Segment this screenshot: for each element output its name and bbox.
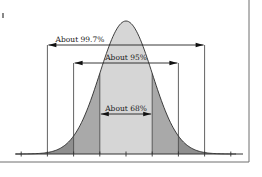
corner-mark — [2, 13, 4, 18]
arrowhead-left-1 — [75, 61, 83, 66]
empirical-rule-diagram: About 99.7% About 95% About 68% — [0, 0, 262, 177]
label-95: About 95% — [104, 53, 147, 62]
arrowhead-right-0 — [196, 43, 204, 48]
label-68: About 68% — [104, 104, 147, 113]
region-center-68 — [100, 21, 152, 154]
shaded-regions — [16, 21, 236, 154]
arrowhead-right-1 — [169, 61, 177, 66]
label-99-7: About 99.7% — [55, 35, 105, 44]
